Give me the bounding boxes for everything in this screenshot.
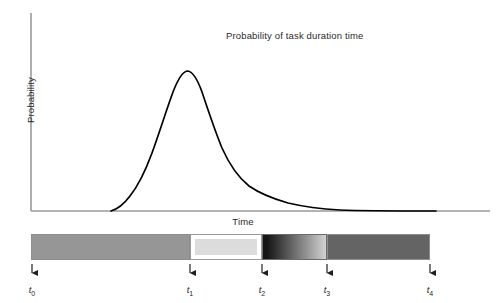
tick-label-t3: t3: [324, 284, 331, 297]
figure-probability-of-task-duration-time: Probability of task duration time Probab…: [0, 0, 501, 303]
tick-label-t4: t4: [427, 284, 434, 297]
tick-label-t2: t2: [259, 284, 266, 297]
tick-label-t1: t1: [187, 284, 194, 297]
tick-label-t0: t0: [29, 284, 36, 297]
tick-label-layer: t0t1t2t3t4: [0, 0, 501, 303]
